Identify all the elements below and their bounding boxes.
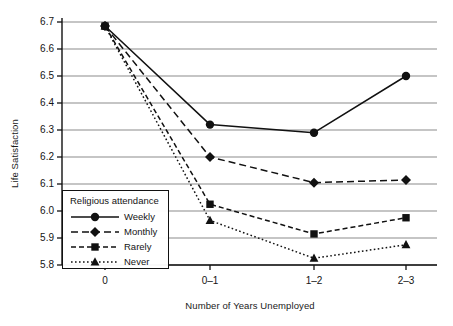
marker-rarely-1 <box>206 201 213 208</box>
legend-marker-square-icon <box>91 243 98 250</box>
y-tick-label: 6.4 <box>20 97 54 108</box>
legend-sample-circle-icon <box>69 209 121 225</box>
life-satisfaction-line-chart: Life Satisfaction Number of Years Unempl… <box>0 0 453 326</box>
legend-item-monthly[interactable]: Monthly <box>69 224 167 240</box>
x-axis-title: Number of Years Unemployed <box>62 300 438 311</box>
series-line-weekly <box>105 26 406 133</box>
marker-rarely-3 <box>402 214 409 221</box>
legend-label: Never <box>124 256 149 267</box>
x-tick-label: 0 <box>82 275 128 286</box>
marker-monthly-1 <box>205 152 215 162</box>
y-tick-label: 6.7 <box>20 16 54 27</box>
y-tick-label: 6.2 <box>20 151 54 162</box>
marker-weekly-2 <box>310 129 318 137</box>
legend-label: Monthly <box>124 226 157 237</box>
legend-item-never[interactable]: Never <box>69 254 167 270</box>
y-tick-label: 6.0 <box>20 205 54 216</box>
legend-sample-square-icon <box>69 239 121 255</box>
legend-title: Religious attendance <box>70 195 159 206</box>
marker-weekly-3 <box>402 72 410 80</box>
legend-label: Weekly <box>124 211 155 222</box>
y-tick-label: 5.8 <box>20 259 54 270</box>
x-tick-label: 1–2 <box>291 275 337 286</box>
legend: Religious attendance WeeklyMonthlyRarely… <box>62 190 169 269</box>
legend-item-weekly[interactable]: Weekly <box>69 209 167 225</box>
legend-sample-diamond-icon <box>69 224 121 240</box>
marker-never-3 <box>402 240 411 248</box>
legend-marker-circle-icon <box>91 213 99 221</box>
legend-sample-triangle-icon <box>69 254 121 270</box>
y-tick-label: 6.5 <box>20 70 54 81</box>
x-tick-label: 2–3 <box>383 275 429 286</box>
marker-rarely-2 <box>310 230 317 237</box>
legend-label: Rarely <box>124 241 151 252</box>
legend-item-rarely[interactable]: Rarely <box>69 239 167 255</box>
marker-weekly-1 <box>206 120 214 128</box>
y-tick-label: 6.1 <box>20 178 54 189</box>
y-tick-label: 6.3 <box>20 124 54 135</box>
y-axis-title: Life Satisfaction <box>9 94 20 214</box>
y-tick-label: 5.9 <box>20 232 54 243</box>
x-tick-label: 0–1 <box>187 275 233 286</box>
marker-never-1 <box>206 216 215 224</box>
marker-monthly-2 <box>309 178 319 188</box>
legend-marker-diamond-icon <box>90 227 100 237</box>
y-tick-label: 6.6 <box>20 43 54 54</box>
